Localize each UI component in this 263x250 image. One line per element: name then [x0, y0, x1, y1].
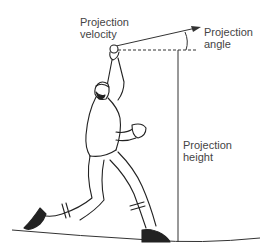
arrowhead-icon	[191, 26, 201, 32]
height-label: Projection height	[183, 139, 232, 163]
angle-label: Projection angle	[204, 26, 253, 50]
angle-arc	[185, 32, 187, 50]
pitcher-figure	[24, 45, 170, 242]
ground-line	[12, 230, 260, 242]
velocity-label: Projection velocity	[80, 16, 129, 40]
